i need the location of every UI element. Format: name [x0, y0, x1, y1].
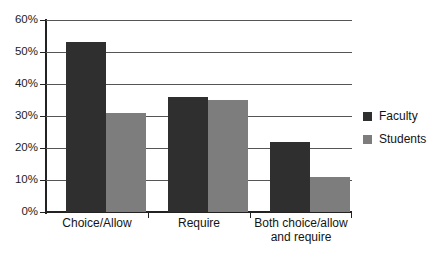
x-axis-label-choice-allow: Choice/Allow: [46, 216, 148, 230]
y-axis-label-20: 20%: [0, 142, 38, 154]
y-axis-label-40: 40%: [0, 78, 38, 90]
bar-faculty-both: [270, 142, 310, 212]
legend-swatch-students: [363, 135, 372, 144]
legend-swatch-faculty: [363, 112, 372, 121]
legend-item-students: Students: [363, 133, 426, 145]
bar-faculty-choice-allow: [66, 42, 106, 212]
x-axis-label-require: Require: [148, 216, 250, 230]
y-axis-labels: 60% 50% 40% 30% 20% 10% 0%: [0, 0, 38, 253]
bar-chart: 60% 50% 40% 30% 20% 10% 0%: [0, 0, 438, 253]
y-axis-label-50: 50%: [0, 46, 38, 58]
y-axis-label-60: 60%: [0, 14, 38, 26]
x-axis-label-both: Both choice/allow and require: [244, 216, 358, 244]
plot-area: [46, 20, 352, 212]
legend-label-students: Students: [379, 133, 426, 145]
y-axis-label-30: 30%: [0, 110, 38, 122]
y-axis-label-10: 10%: [0, 174, 38, 186]
bar-students-choice-allow: [106, 113, 146, 212]
bar-students-require: [208, 100, 248, 212]
bar-faculty-require: [168, 97, 208, 212]
y-axis-label-0: 0%: [0, 206, 38, 218]
legend-label-faculty: Faculty: [379, 110, 418, 122]
bar-group-require: [168, 20, 250, 212]
bar-students-both: [310, 177, 350, 212]
legend-item-faculty: Faculty: [363, 110, 426, 122]
bar-group-choice-allow: [66, 20, 148, 212]
chart-legend: Faculty Students: [363, 110, 426, 145]
bar-group-both-choice-and-require: [270, 20, 352, 212]
